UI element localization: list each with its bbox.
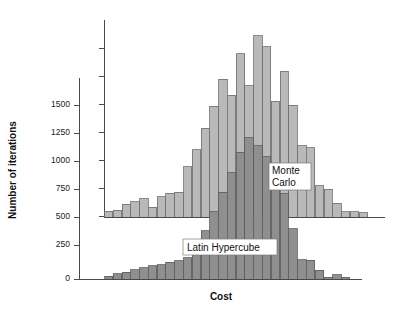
x-axis-title: Cost (210, 291, 233, 302)
chart-svg: Number of iterations 0 250 500 750 1000 … (0, 0, 398, 315)
y-axis-title: Number of iterations (7, 121, 18, 219)
y-tick-label-500: 500 (56, 211, 70, 221)
y-axis-title-group: Number of iterations (7, 121, 18, 219)
monte-carlo-label-line2: Carlo (272, 177, 296, 188)
monte-carlo-label-line1: Monte (272, 165, 300, 176)
histogram-bar (192, 150, 200, 218)
histogram-bar (342, 212, 350, 218)
histogram-bar (219, 192, 227, 279)
monte-carlo-series-label: Monte Carlo (269, 163, 311, 190)
secondary-y-axis (99, 20, 105, 218)
y-tick-label-1500: 1500 (51, 99, 70, 109)
histogram-bar (306, 260, 314, 279)
histogram-figure: Number of iterations 0 250 500 750 1000 … (0, 0, 398, 315)
histogram-bar (157, 265, 165, 280)
histogram-bar (359, 213, 367, 218)
histogram-bar (175, 192, 183, 217)
histogram-bar (140, 199, 148, 218)
histogram-bar (254, 146, 262, 280)
histogram-bar (236, 152, 244, 279)
histogram-bar (333, 203, 341, 217)
y-tick-label-0: 0 (65, 273, 70, 283)
y-tick-label-1250: 1250 (51, 127, 70, 137)
histogram-bar (289, 105, 297, 217)
latin-hypercube-series-label: Latin Hypercube (183, 239, 277, 255)
histogram-bar (350, 212, 358, 218)
histogram-bar (105, 211, 113, 217)
histogram-bar (140, 268, 148, 280)
y-tick-label-1000: 1000 (51, 155, 70, 165)
histogram-bar (280, 194, 288, 280)
histogram-bar (122, 272, 130, 279)
primary-y-axis: 0 250 500 750 1000 1250 1500 (51, 78, 79, 283)
histogram-bar (289, 229, 297, 280)
histogram-bar (315, 186, 323, 218)
histogram-bar (324, 189, 332, 217)
histogram-bar (113, 274, 121, 280)
histogram-bar (113, 210, 121, 217)
histogram-bar (157, 197, 165, 218)
histogram-bar (148, 266, 156, 280)
histogram-bar (227, 173, 235, 280)
latin-hypercube-label-text: Latin Hypercube (187, 242, 260, 253)
histogram-bar (245, 138, 253, 280)
histogram-bar (184, 167, 192, 218)
histogram-bar (210, 106, 218, 217)
histogram-bar (175, 261, 183, 280)
histogram-bar (131, 270, 139, 280)
histogram-bar (184, 258, 192, 280)
histogram-bar (333, 275, 341, 280)
histogram-bar (148, 207, 156, 217)
histogram-bar (166, 193, 174, 217)
histogram-bar (131, 202, 139, 218)
y-tick-label-750: 750 (56, 183, 70, 193)
histogram-bar (298, 260, 306, 280)
y-tick-label-250: 250 (56, 239, 70, 249)
histogram-bar (122, 204, 130, 217)
histogram-bar (315, 270, 323, 279)
histogram-bar (166, 262, 174, 279)
histogram-bar (201, 128, 209, 217)
